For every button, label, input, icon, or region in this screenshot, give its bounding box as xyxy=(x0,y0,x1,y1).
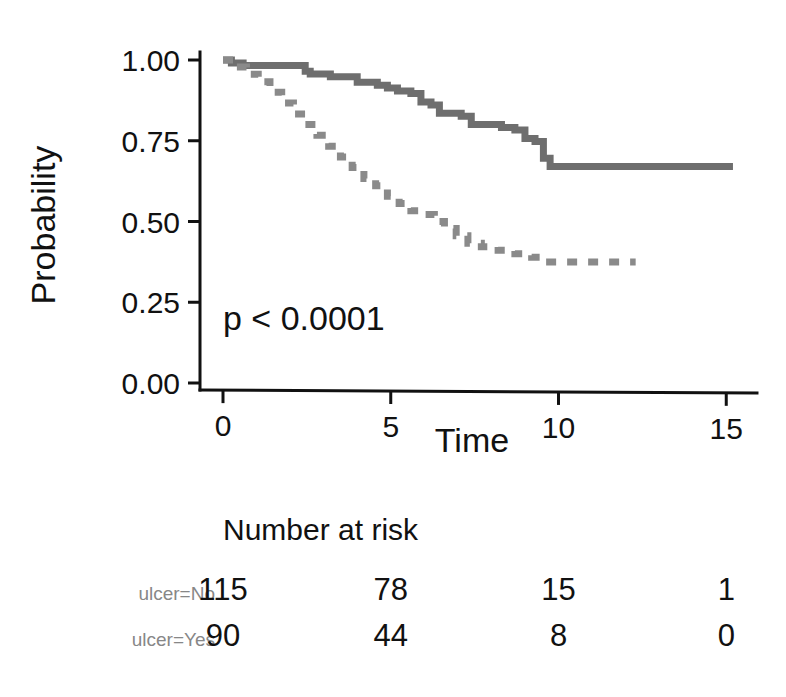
x-tick-label-3: 15 xyxy=(710,412,743,445)
risk-row-label-1: ulcer=Yes xyxy=(132,629,215,650)
p-value-annotation: p < 0.0001 xyxy=(223,299,385,337)
risk-cell-1-2: 8 xyxy=(550,618,567,653)
risk-cell-0-2: 15 xyxy=(541,572,575,607)
y-tick-label-2: 0.50 xyxy=(122,206,180,239)
x-tick-label-1: 5 xyxy=(382,410,399,443)
km-curves xyxy=(223,60,733,262)
survival-curve-ulcer-yes xyxy=(223,60,636,262)
survival-plot: 0.000.250.500.751.00 051015 Time Probabi… xyxy=(0,0,786,697)
x-axis-title: Time xyxy=(435,421,509,459)
risk-cell-1-0: 90 xyxy=(206,618,240,653)
risk-cell-0-3: 1 xyxy=(718,572,735,607)
y-axis-ticks xyxy=(188,60,200,383)
risk-cell-1-3: 0 xyxy=(718,618,735,653)
y-axis-tick-labels: 0.000.250.500.751.00 xyxy=(122,44,180,400)
y-axis-title: Probability xyxy=(24,146,62,305)
risk-cell-0-0: 115 xyxy=(198,572,247,607)
x-tick-label-0: 0 xyxy=(215,409,232,442)
x-axis-line xyxy=(200,390,757,393)
risk-table-title: Number at risk xyxy=(223,513,419,546)
y-tick-label-3: 0.75 xyxy=(122,125,180,158)
risk-cell-0-1: 78 xyxy=(374,572,408,607)
risk-table: ulcer=No11578151ulcer=Yes904480 xyxy=(132,572,735,653)
y-tick-label-0: 0.00 xyxy=(122,367,180,400)
y-tick-label-4: 1.00 xyxy=(122,44,180,77)
x-tick-label-2: 10 xyxy=(542,411,575,444)
risk-cell-1-1: 44 xyxy=(374,618,408,653)
kaplan-meier-figure: 0.000.250.500.751.00 051015 Time Probabi… xyxy=(0,0,786,697)
y-tick-label-1: 0.25 xyxy=(122,286,180,319)
